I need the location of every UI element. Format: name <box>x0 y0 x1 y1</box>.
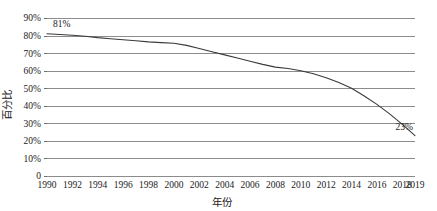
y-axis-tick-label: 40% <box>24 101 42 111</box>
x-axis-tick-label: 2006 <box>241 180 260 190</box>
x-axis-tick-label: 2014 <box>342 180 361 190</box>
data-point-label: 23% <box>396 122 414 132</box>
x-axis-tick-label: 2008 <box>266 180 285 190</box>
x-axis-tick-label: 2002 <box>190 180 209 190</box>
y-axis-tick-label: 50% <box>24 84 42 94</box>
x-axis-tick-label: 2019 <box>406 180 425 190</box>
y-axis-tick-label: 60% <box>24 66 42 76</box>
y-axis-tick-label: 90% <box>24 13 42 23</box>
y-axis-tick-label: 10% <box>24 154 42 164</box>
data-point-label: 81% <box>53 19 71 29</box>
line-chart: 90%80%70%60%50%40%30%20%10%0 19901992199… <box>0 0 437 211</box>
x-axis-tick-label: 2012 <box>317 180 336 190</box>
x-axis-tick-label: 1990 <box>38 180 57 190</box>
x-axis-tick-label: 2000 <box>164 180 183 190</box>
y-axis-tick-label: 30% <box>24 119 42 129</box>
x-axis-tick-label: 2016 <box>367 180 386 190</box>
x-axis-tick-label: 1994 <box>88 180 107 190</box>
chart-canvas: 90%80%70%60%50%40%30%20%10%0 19901992199… <box>0 0 437 211</box>
x-axis-tick-label: 2010 <box>291 180 310 190</box>
x-axis-tick-label: 2004 <box>215 180 234 190</box>
x-axis-tick-label: 1992 <box>63 180 82 190</box>
x-axis-tick-label: 1996 <box>114 180 133 190</box>
x-axis-tick-label: 1998 <box>139 180 158 190</box>
y-axis-tick-label: 70% <box>24 49 42 59</box>
x-axis-tick-labels: 1990199219941996199820002002200420062008… <box>38 180 425 190</box>
y-axis-tick-label: 80% <box>24 31 42 41</box>
y-axis-tick-label: 20% <box>24 136 42 146</box>
x-axis-title: 年份 <box>212 196 233 208</box>
y-axis-title: 百分比 <box>1 90 13 120</box>
